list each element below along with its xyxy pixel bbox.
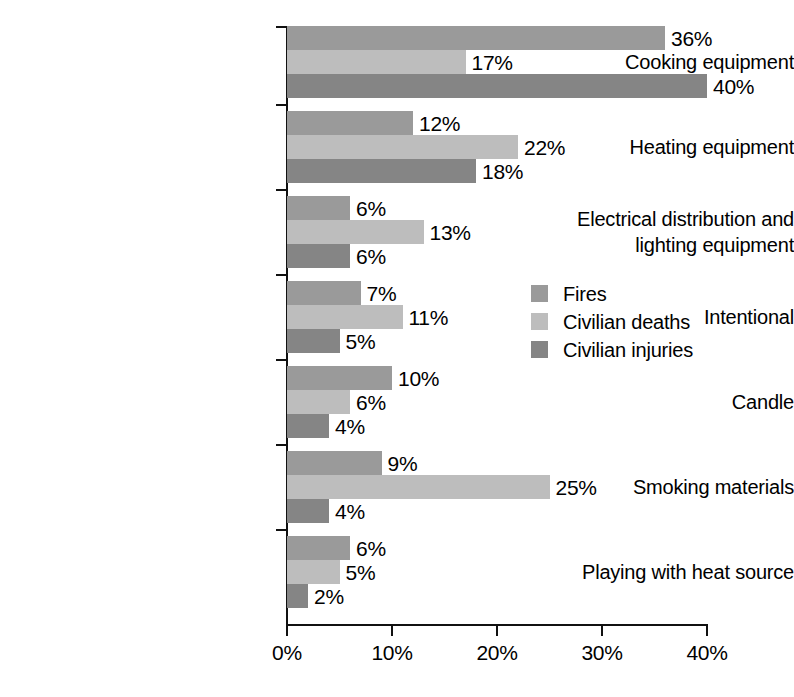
- bar-value-label: 12%: [419, 112, 460, 136]
- bar-value-label: 18%: [482, 160, 523, 184]
- bar-value-label: 4%: [335, 500, 365, 524]
- bar-value-label: 25%: [556, 476, 597, 500]
- x-axis-tick-label: 20%: [476, 640, 517, 665]
- y-axis-tick: [276, 444, 287, 446]
- x-axis-tick: [601, 625, 603, 636]
- bar-fires-1: [287, 26, 665, 50]
- y-axis-tick-top: [276, 26, 287, 28]
- bar-civilian-deaths-2: [287, 135, 518, 159]
- legend-label: Civilian deaths: [563, 309, 690, 335]
- bar-civilian-deaths-3: [287, 220, 424, 244]
- bar-civilian-injuries-4: [287, 329, 340, 353]
- bar-value-label: 7%: [367, 282, 397, 306]
- bar-civilian-injuries-3: [287, 244, 350, 268]
- bar-civilian-deaths-7: [287, 560, 340, 584]
- bar-civilian-injuries-1: [287, 74, 707, 98]
- x-axis-tick: [706, 625, 708, 636]
- bar-fires-4: [287, 281, 361, 305]
- y-axis-tick: [276, 189, 287, 191]
- legend-label: Fires: [563, 281, 606, 307]
- bar-value-label: 6%: [356, 537, 386, 561]
- bar-civilian-deaths-5: [287, 390, 350, 414]
- bar-value-label: 13%: [430, 221, 471, 245]
- bar-value-label: 9%: [388, 452, 418, 476]
- x-axis-tick-label: 0%: [272, 640, 302, 665]
- bar-civilian-injuries-5: [287, 414, 329, 438]
- bar-fires-3: [287, 196, 350, 220]
- bar-civilian-deaths-4: [287, 305, 403, 329]
- x-axis-tick: [496, 625, 498, 636]
- bar-civilian-deaths-1: [287, 50, 466, 74]
- legend-swatch-icon: [531, 313, 548, 330]
- bar-value-label: 10%: [398, 367, 439, 391]
- bar-civilian-injuries-2: [287, 159, 476, 183]
- x-axis-tick: [391, 625, 393, 636]
- bar-value-label: 5%: [346, 561, 376, 585]
- bar-fires-6: [287, 451, 382, 475]
- bar-value-label: 5%: [346, 330, 376, 354]
- y-axis-tick: [276, 104, 287, 106]
- legend-label: Civilian injuries: [563, 337, 693, 363]
- bar-value-label: 11%: [409, 306, 449, 330]
- bar-value-label: 6%: [356, 391, 386, 415]
- bar-value-label: 6%: [356, 245, 386, 269]
- x-axis-tick-label: 30%: [581, 640, 622, 665]
- bar-value-label: 17%: [472, 51, 513, 75]
- legend-swatch-icon: [531, 285, 548, 302]
- bar-value-label: 2%: [314, 585, 344, 609]
- bar-value-label: 40%: [713, 75, 754, 99]
- bar-value-label: 6%: [356, 197, 386, 221]
- bar-civilian-injuries-7: [287, 584, 308, 608]
- bar-civilian-deaths-6: [287, 475, 550, 499]
- bar-fires-2: [287, 111, 413, 135]
- y-axis-tick: [276, 274, 287, 276]
- x-axis-tick-label: 40%: [686, 640, 727, 665]
- bar-chart: Cooking equipmentHeating equipmentElectr…: [0, 0, 794, 697]
- bar-value-label: 22%: [524, 136, 565, 160]
- bar-civilian-injuries-6: [287, 499, 329, 523]
- bar-fires-7: [287, 536, 350, 560]
- y-axis-tick: [276, 359, 287, 361]
- x-axis-tick: [286, 625, 288, 636]
- legend-swatch-icon: [531, 341, 548, 358]
- bar-fires-5: [287, 366, 392, 390]
- bar-value-label: 4%: [335, 415, 365, 439]
- bar-value-label: 36%: [671, 27, 712, 51]
- x-axis-tick-label: 10%: [371, 640, 412, 665]
- y-axis-tick: [276, 529, 287, 531]
